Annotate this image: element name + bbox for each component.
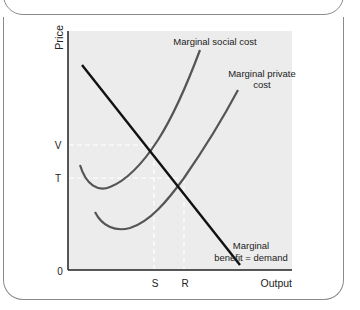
tick-r: R [181,278,188,289]
economics-chart: Price V T 0 S R Output Marginal social c… [0,0,360,310]
mb-label-line1: Marginal [233,240,269,251]
mpc-label-line1: Marginal private [228,68,296,79]
tick-t: T [55,173,61,184]
mb-label-line2: benefit = demand [214,252,288,263]
tick-zero: 0 [57,266,63,277]
plot-area [68,31,292,270]
y-axis-label: Price [53,25,65,50]
tick-v: V [55,140,62,151]
msc-label: Marginal social cost [173,36,257,47]
tick-s: S [152,278,159,289]
mpc-label-line2: cost [253,79,271,90]
x-axis-label: Output [260,277,292,289]
